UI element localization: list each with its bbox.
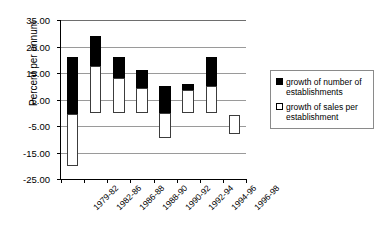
x-tick-mark <box>107 179 108 183</box>
y-tick-mark <box>57 153 61 154</box>
plot-area <box>60 20 246 180</box>
y-tick-label: -25.00 <box>6 175 50 184</box>
gridline <box>61 153 246 154</box>
chart-container: Percent per annum 35.0025.0015.005.00-5.… <box>0 0 387 239</box>
bar-segment-establishments <box>113 57 125 78</box>
bar-group <box>159 20 171 179</box>
bar-segment-sales <box>229 115 241 134</box>
x-tick-label: 1979-82 <box>91 183 120 212</box>
gridline <box>61 47 246 48</box>
bar-segment-sales <box>182 90 194 113</box>
x-tick-mark <box>61 179 62 183</box>
legend-swatch-filled-icon <box>276 78 283 85</box>
gridline <box>61 126 246 127</box>
gridline <box>61 20 246 21</box>
bar-group <box>67 20 79 179</box>
bar-segment-sales <box>206 86 218 113</box>
x-tick-mark <box>200 179 201 183</box>
bar-segment-establishments <box>182 84 194 91</box>
y-tick-label: 35.00 <box>6 16 50 25</box>
x-tick-mark <box>84 179 85 183</box>
bar-segment-sales <box>113 78 125 112</box>
bar-group <box>182 20 194 179</box>
bar-segment-establishments <box>206 57 218 86</box>
y-axis-tick-labels: 35.0025.0015.005.00-5.00-15.00-25.00 <box>6 0 50 239</box>
bar-segment-sales <box>90 66 102 112</box>
x-tick-mark <box>246 179 247 183</box>
y-tick-label: 15.00 <box>6 69 50 78</box>
y-tick-label: 5.00 <box>6 95 50 104</box>
bar-group <box>90 20 102 179</box>
bar-segment-establishments <box>159 86 171 113</box>
bar-group <box>113 20 125 179</box>
y-tick-label: 25.00 <box>6 42 50 51</box>
bar-segment-establishments <box>67 57 79 114</box>
y-tick-mark <box>57 20 61 21</box>
x-tick-mark <box>130 179 131 183</box>
legend-swatch-outline-icon <box>276 103 283 110</box>
bar-segment-sales <box>159 113 171 138</box>
bar-segment-establishments <box>136 70 148 87</box>
legend-item: growth of number of establishments <box>276 77 368 97</box>
gridline <box>61 100 246 101</box>
bar-segment-sales <box>67 114 79 166</box>
y-tick-label: -5.00 <box>6 122 50 131</box>
y-tick-mark <box>57 100 61 101</box>
x-tick-mark <box>154 179 155 183</box>
y-tick-mark <box>57 126 61 127</box>
bar-group <box>136 20 148 179</box>
bar-segment-establishments <box>90 36 102 66</box>
y-tick-label: -15.00 <box>6 148 50 157</box>
bar-group <box>206 20 218 179</box>
legend-item: growth of sales per establishment <box>276 102 368 122</box>
x-tick-mark <box>177 179 178 183</box>
y-tick-mark <box>57 73 61 74</box>
chart-legend: growth of number of establishmentsgrowth… <box>270 70 374 129</box>
bar-group <box>229 20 241 179</box>
legend-item-label: growth of number of establishments <box>286 77 368 97</box>
bar-segment-sales <box>136 88 148 113</box>
x-tick-mark <box>223 179 224 183</box>
gridline <box>61 73 246 74</box>
legend-item-label: growth of sales per establishment <box>286 102 368 122</box>
x-tick-label: 1996-98 <box>253 183 282 212</box>
y-tick-mark <box>57 47 61 48</box>
